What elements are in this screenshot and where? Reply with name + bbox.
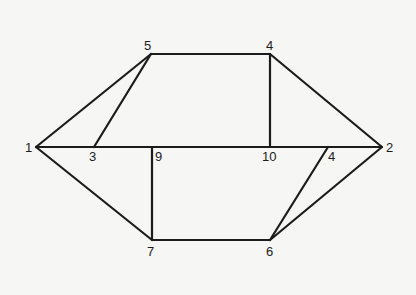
edge-6-4 bbox=[270, 147, 328, 240]
edge-4-2 bbox=[270, 54, 382, 147]
node-label: 4 bbox=[266, 38, 273, 53]
edges-group bbox=[36, 54, 382, 240]
graph-diagram: 12543910476 bbox=[0, 0, 416, 295]
edge-1-5 bbox=[36, 54, 151, 147]
node-label: 7 bbox=[147, 244, 154, 259]
edge-6-2 bbox=[270, 147, 382, 240]
node-label: 1 bbox=[25, 140, 32, 155]
node-label: 2 bbox=[386, 140, 393, 155]
node-label: 5 bbox=[144, 38, 151, 53]
node-label: 10 bbox=[262, 149, 276, 164]
edge-3-5 bbox=[94, 54, 151, 147]
node-label: 4 bbox=[328, 149, 335, 164]
node-label: 3 bbox=[89, 149, 96, 164]
node-label: 9 bbox=[155, 149, 162, 164]
node-label: 6 bbox=[266, 244, 273, 259]
labels-group: 12543910476 bbox=[25, 38, 393, 259]
graph-svg: 12543910476 bbox=[0, 0, 416, 295]
